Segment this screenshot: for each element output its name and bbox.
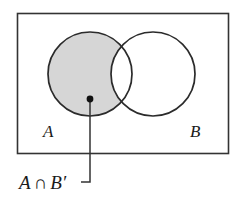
callout-caption: A∩B′ — [17, 172, 67, 193]
circle-b-label: B — [190, 122, 201, 141]
venn-diagram-figure: A B A∩B′ — [0, 0, 238, 205]
venn-diagram-canvas: A B A∩B′ — [0, 0, 238, 205]
caption-intersection-operator: ∩ — [34, 172, 48, 193]
caption-left-operand: A — [17, 172, 31, 193]
circle-a-label: A — [42, 122, 54, 141]
callout-anchor-dot — [87, 96, 94, 103]
caption-right-operand: B′ — [50, 172, 67, 193]
